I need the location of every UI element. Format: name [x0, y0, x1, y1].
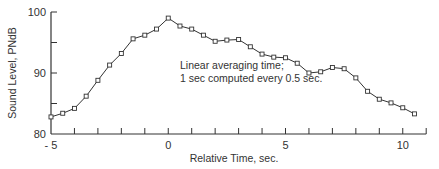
data-point-marker — [248, 45, 252, 49]
data-point-marker — [131, 37, 135, 41]
sound-level-chart: - 50510 8090100 Relative Time, sec. Soun… — [0, 0, 439, 169]
annotation-line-1: Linear averaging time; — [180, 59, 284, 71]
y-axis-title: Sound Level, PNdB — [6, 27, 18, 119]
data-point-marker — [401, 106, 405, 110]
data-point-marker — [190, 27, 194, 31]
data-point-marker — [366, 89, 370, 93]
data-point-marker — [178, 24, 182, 28]
x-tick-label: 5 — [282, 139, 288, 151]
x-tick-label: - 5 — [45, 139, 58, 151]
y-axis-ticks: 8090100 — [28, 6, 57, 140]
data-point-marker — [330, 66, 334, 70]
y-tick-label: 100 — [28, 6, 46, 18]
y-tick-label: 90 — [34, 67, 46, 79]
data-point-marker — [84, 94, 88, 98]
data-point-marker — [237, 37, 241, 41]
data-point-marker — [389, 101, 393, 105]
data-point-marker — [61, 111, 65, 115]
chart-canvas: - 50510 8090100 Relative Time, sec. Soun… — [0, 0, 439, 169]
data-point-marker — [342, 67, 346, 71]
x-axis-title: Relative Time, sec. — [190, 152, 279, 164]
data-point-marker — [284, 56, 288, 60]
y-tick-label: 80 — [34, 128, 46, 140]
x-tick-label: 10 — [397, 139, 409, 151]
data-point-marker — [225, 38, 229, 42]
data-point-marker — [295, 61, 299, 65]
x-axis-ticks: - 50510 — [45, 128, 427, 151]
x-tick-label: 0 — [165, 139, 171, 151]
data-point-marker — [412, 112, 416, 116]
data-point-marker — [143, 33, 147, 37]
data-point-marker — [155, 27, 159, 31]
data-point-marker — [49, 115, 53, 119]
data-point-marker — [201, 33, 205, 37]
annotation-line-2: 1 sec computed every 0.5 sec. — [180, 72, 322, 84]
data-point-marker — [260, 52, 264, 56]
data-point-marker — [108, 63, 112, 67]
data-point-marker — [72, 106, 76, 110]
data-point-marker — [166, 16, 170, 20]
data-point-marker — [354, 76, 358, 80]
data-point-marker — [96, 78, 100, 82]
data-point-marker — [213, 39, 217, 43]
data-point-marker — [119, 51, 123, 55]
data-point-marker — [377, 97, 381, 101]
